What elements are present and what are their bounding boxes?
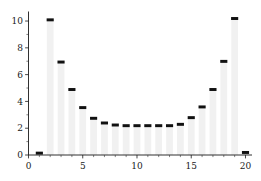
bar-item — [166, 124, 173, 155]
bar-body — [188, 117, 195, 155]
bar-body — [210, 89, 217, 155]
bar-cap-marker — [133, 124, 140, 127]
bar-item — [79, 106, 86, 155]
bar-body — [58, 62, 65, 155]
bar-item — [36, 152, 43, 155]
x-axis-tick-label: 15 — [186, 161, 198, 171]
bar-body — [155, 126, 162, 155]
bar-cap-marker — [242, 151, 249, 154]
bar-item — [101, 122, 108, 155]
x-axis-tick-label: 0 — [26, 161, 32, 171]
bar-item — [199, 105, 206, 155]
x-axis-tick-label: 10 — [131, 161, 143, 171]
bar-body — [144, 126, 151, 155]
bar-item — [177, 123, 184, 155]
bar-body — [123, 126, 130, 155]
bar-cap-marker — [166, 124, 173, 127]
x-axis-tick-label: 5 — [80, 161, 86, 171]
bar-body — [199, 107, 206, 155]
bar-cap-marker — [188, 116, 195, 119]
bar-cap-marker — [220, 60, 227, 63]
bar-body — [112, 125, 119, 155]
y-axis-tick-label: 8 — [17, 43, 23, 53]
bar-cap-marker — [101, 122, 108, 125]
y-axis-tick-label: 0 — [17, 150, 23, 160]
bar-item — [188, 116, 195, 155]
x-axis-tick-label: 20 — [240, 161, 252, 171]
bar-cap-marker — [79, 106, 86, 109]
bar-body — [101, 123, 108, 155]
bar-item — [90, 117, 97, 155]
bar-chart-canvas: 024681005101520 — [0, 0, 261, 181]
bar-item — [112, 124, 119, 155]
bar-cap-marker — [209, 88, 216, 91]
bar-item — [220, 60, 227, 155]
bar-item — [123, 124, 130, 155]
bar-body — [90, 118, 97, 155]
bar-item — [242, 151, 249, 155]
bar-body — [79, 107, 86, 155]
bar-item — [155, 124, 162, 155]
bar-cap-marker — [231, 17, 238, 20]
bar-cap-marker — [144, 124, 151, 127]
bar-cap-marker — [68, 88, 75, 91]
bar-cap-marker — [57, 61, 64, 64]
bar-cap-marker — [199, 105, 206, 108]
bar-cap-marker — [112, 124, 119, 127]
bar-cap-marker — [155, 124, 162, 127]
bar-cap-marker — [123, 124, 130, 127]
bar-cap-marker — [36, 152, 43, 155]
bar-item — [47, 18, 54, 155]
bar-body — [177, 124, 184, 155]
bar-cap-marker — [90, 117, 97, 120]
bar-body — [134, 126, 141, 155]
chart-figure: 024681005101520 — [0, 0, 261, 181]
bar-body — [166, 126, 173, 155]
bar-item — [231, 17, 238, 155]
bar-item — [144, 124, 151, 155]
y-axis-tick-label: 4 — [17, 97, 23, 107]
bar-body — [69, 89, 76, 155]
y-axis-tick-label: 6 — [17, 70, 23, 80]
bar-item — [133, 124, 140, 155]
bar-item — [57, 61, 64, 155]
bar-item — [68, 88, 75, 155]
bar-cap-marker — [177, 123, 184, 126]
bar-body — [231, 18, 238, 155]
bar-item — [209, 88, 216, 155]
y-axis-tick-label: 10 — [12, 16, 24, 26]
y-axis-tick-label: 2 — [17, 123, 23, 133]
bar-body — [47, 20, 54, 155]
bar-body — [220, 61, 227, 155]
bar-cap-marker — [47, 18, 54, 21]
